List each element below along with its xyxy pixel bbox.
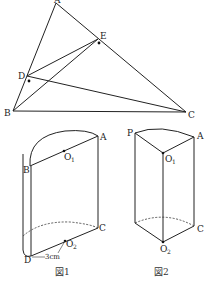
label-c: C xyxy=(197,224,204,234)
hidden-arc xyxy=(135,217,194,226)
caption-fig1: 図1 xyxy=(55,267,70,277)
segment-po1 xyxy=(135,133,163,153)
label-d: D xyxy=(18,71,25,81)
label-p: P xyxy=(127,128,133,138)
label-b: B xyxy=(23,165,30,175)
dimension-label: 3cm xyxy=(45,253,60,261)
label-o2-sub: 2 xyxy=(167,248,171,255)
hidden-arc xyxy=(23,222,98,236)
label-o1-sub: 1 xyxy=(172,158,176,165)
label-a: A xyxy=(53,0,61,5)
bottom-edge-left xyxy=(135,223,163,242)
geometry-diagram: A B C D E A B C D O 1 O 2 3cm 図1 xyxy=(0,0,209,281)
segment-ab xyxy=(13,3,56,111)
label-d: D xyxy=(24,255,31,265)
label-c: C xyxy=(99,223,106,233)
top-arc xyxy=(135,129,194,137)
segment-dc xyxy=(27,76,186,112)
segment-o2c xyxy=(163,226,194,242)
triangle-figure: A B C D E xyxy=(4,0,195,120)
segment-be xyxy=(13,39,98,111)
label-o2-sub: 2 xyxy=(73,243,77,250)
angle-mark-d xyxy=(28,80,31,83)
label-e: E xyxy=(100,31,107,41)
label-o1-sub: 1 xyxy=(71,156,75,163)
angle-mark-e xyxy=(98,42,101,45)
center-o2 xyxy=(162,241,165,244)
caption-fig2: 図2 xyxy=(154,267,169,277)
center-o1 xyxy=(162,152,165,155)
label-c: C xyxy=(188,110,195,120)
figure-2: P A C O 1 O 2 図2 xyxy=(127,128,204,277)
label-a: A xyxy=(99,132,107,142)
label-a: A xyxy=(196,131,204,141)
label-b: B xyxy=(4,108,11,118)
segment-o1a xyxy=(163,137,194,153)
figure-1: A B C D O 1 O 2 3cm 図1 xyxy=(23,131,107,277)
segment-de xyxy=(27,39,98,76)
segment-bc xyxy=(13,111,186,112)
